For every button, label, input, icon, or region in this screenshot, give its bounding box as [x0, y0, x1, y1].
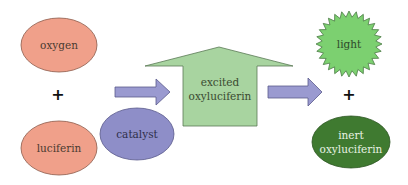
catalyst-label: catalyst — [116, 128, 158, 140]
excited-label-line1: excited — [201, 76, 240, 88]
excited-label-line2: oxyluciferin — [189, 90, 252, 102]
right-arrow-1 — [115, 79, 170, 105]
inert-label-line2: oxyluciferin — [320, 143, 383, 155]
plus-sign-left: + — [51, 85, 64, 104]
light-node: light — [316, 11, 382, 77]
oxygen-label: oxygen — [40, 39, 78, 51]
bioluminescence-diagram: oxygen + luciferin catalyst excited oxyl… — [0, 0, 408, 185]
luciferin-label: luciferin — [37, 142, 82, 154]
catalyst-node: catalyst — [100, 108, 174, 160]
oxygen-node: oxygen — [21, 18, 97, 72]
right-arrow-2 — [268, 78, 322, 106]
light-label: light — [337, 38, 362, 50]
inert-label-line1: inert — [338, 129, 364, 141]
inert-oxyluciferin-node: inert oxyluciferin — [312, 116, 390, 168]
plus-sign-right: + — [342, 85, 355, 104]
luciferin-node: luciferin — [21, 121, 97, 175]
